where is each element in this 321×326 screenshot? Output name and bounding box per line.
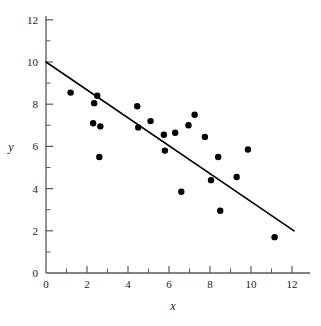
data-point	[172, 129, 178, 135]
data-point	[67, 89, 73, 95]
data-point	[271, 234, 277, 240]
y-tick-label: 2	[33, 225, 39, 236]
data-point	[162, 147, 168, 153]
x-tick-label: 0	[43, 279, 49, 290]
y-axis-ticks	[46, 20, 53, 252]
data-point	[217, 208, 223, 214]
data-point	[91, 100, 97, 106]
y-tick-label: 0	[33, 268, 39, 279]
y-tick-label: 4	[33, 183, 39, 194]
data-point	[178, 189, 184, 195]
data-point	[96, 154, 102, 160]
data-point	[161, 132, 167, 138]
data-point	[233, 174, 239, 180]
scatter-plot-figure: 024681012024681012 y x	[0, 0, 321, 326]
y-axis-title: y	[8, 141, 13, 153]
data-point	[215, 154, 221, 160]
data-point	[90, 120, 96, 126]
data-point	[202, 134, 208, 140]
x-tick-label: 6	[166, 279, 172, 290]
x-axis-title: x	[170, 300, 175, 312]
data-point	[97, 123, 103, 129]
x-tick-label: 10	[246, 279, 257, 290]
data-point	[185, 122, 191, 128]
data-point	[134, 103, 140, 109]
data-point	[94, 93, 100, 99]
x-axis-ticks	[67, 266, 293, 273]
data-point	[191, 112, 197, 118]
data-point	[135, 124, 141, 130]
data-point	[245, 146, 251, 152]
x-tick-label: 8	[207, 279, 213, 290]
fit-line	[46, 62, 294, 231]
y-tick-label: 8	[33, 99, 39, 110]
data-points	[67, 89, 277, 240]
x-tick-label: 12	[287, 279, 298, 290]
y-tick-label: 12	[27, 14, 38, 25]
y-tick-label: 10	[27, 57, 38, 68]
axis-lines	[46, 16, 310, 273]
x-tick-label: 4	[125, 279, 131, 290]
regression-line	[46, 62, 294, 231]
x-tick-label: 2	[84, 279, 90, 290]
y-tick-label: 6	[33, 141, 39, 152]
data-point	[208, 177, 214, 183]
data-point	[147, 118, 153, 124]
